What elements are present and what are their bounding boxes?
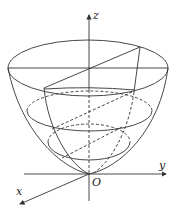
middle-ellipse-visible-top bbox=[44, 88, 135, 90]
top-diagonal-chord bbox=[44, 47, 140, 88]
y-axis-label: y bbox=[159, 160, 165, 171]
x-axis bbox=[20, 174, 89, 204]
z-axis-label: z bbox=[93, 10, 99, 21]
x-axis-label: x bbox=[16, 186, 22, 197]
paraboloid-right-silhouette bbox=[89, 68, 168, 174]
paraboloid-left-silhouette bbox=[8, 68, 89, 174]
slice-back-curve-solid bbox=[134, 47, 140, 92]
slice-back-curve-hidden bbox=[92, 92, 134, 174]
middle-diagonal-chord bbox=[52, 92, 132, 129]
origin-label: O bbox=[92, 177, 101, 188]
paraboloid-diagram: z y x O bbox=[0, 0, 179, 215]
diagram-svg bbox=[0, 0, 179, 215]
middle-ellipse-front bbox=[27, 111, 152, 131]
lower-diagonal-chord bbox=[62, 127, 122, 158]
